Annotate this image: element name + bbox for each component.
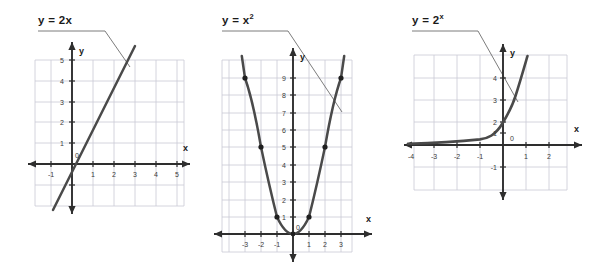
x-tick-label: -3 [431, 153, 437, 160]
origin-label: 0 [510, 135, 514, 142]
x-tick-label: 1 [307, 241, 311, 248]
x-axis-title: x [366, 214, 371, 224]
equation-label-linear: y = 2x [38, 14, 72, 26]
y-tick-label: 2 [60, 119, 64, 126]
data-point [322, 144, 327, 149]
y-tick-label: 5 [60, 57, 64, 64]
linear-graph-svg: -1 1 2 3 4 5 1 2 3 4 5 0 x y [0, 0, 200, 266]
data-point [258, 144, 263, 149]
y-axis-arrow-up-exponential [499, 44, 506, 52]
y-tick-label: 4 [60, 78, 64, 85]
origin-label: 0 [296, 224, 300, 231]
y-tick-label: 7 [282, 110, 286, 117]
axes-quadratic [214, 48, 372, 262]
y-tick-label: 5 [282, 144, 286, 151]
graph-panel-exponential: -4 -3 -2 -1 1 2 -1 1 2 3 4 0 x y [396, 0, 599, 266]
y-axis-title: y [79, 46, 84, 56]
x-tick-label: 1 [524, 153, 528, 160]
x-axis-title: x [574, 124, 579, 134]
x-tick-label: 2 [323, 241, 327, 248]
y-axis-title: y [300, 52, 305, 62]
equation-base-exponential: y = 2 [412, 14, 439, 26]
x-tick-label: 2 [112, 171, 116, 178]
x-tick-label: -1 [274, 241, 280, 248]
y-tick-label: 1 [282, 214, 286, 221]
equation-base-quadratic: y = x [222, 14, 249, 26]
y-tick-label: 4 [493, 75, 497, 82]
x-tick-label: -2 [258, 241, 264, 248]
y-tick-label: 3 [282, 179, 286, 186]
x-tick-label: 4 [154, 171, 158, 178]
x-tick-label: -1 [48, 171, 54, 178]
x-tick-label: 3 [339, 241, 343, 248]
graph-panel-quadratic: -3 -2 -1 1 2 3 1 2 3 4 5 6 7 8 9 0 x y [196, 0, 396, 266]
x-axis-title: x [183, 143, 188, 153]
equation-label-quadratic: y = x2 [222, 14, 254, 26]
x-tick-label: -4 [408, 153, 414, 160]
equation-exponent-exponential: x [439, 12, 443, 21]
equation-label-exponential: y = 2x [412, 14, 444, 26]
y-tick-label: 9 [282, 75, 286, 82]
y-tick-label: 6 [282, 127, 286, 134]
callout-leader-quadratic [222, 31, 342, 112]
x-tick-label: -2 [454, 153, 460, 160]
y-axis-arrow-up-quadratic [289, 48, 296, 56]
data-point [242, 75, 247, 80]
x-tick-label: 2 [547, 153, 551, 160]
x-tick-label: -3 [242, 241, 248, 248]
x-tick-label: -1 [477, 153, 483, 160]
data-point [338, 75, 343, 80]
x-tick-label: 1 [91, 171, 95, 178]
x-axis-arrow-right-linear [182, 160, 190, 167]
y-tick-label: 4 [282, 162, 286, 169]
y-tick-label: 2 [493, 119, 497, 126]
axes-linear [28, 42, 190, 214]
x-tick-label: 5 [175, 171, 179, 178]
exponential-graph-svg: -4 -3 -2 -1 1 2 -1 1 2 3 4 0 x y [396, 0, 599, 266]
y-tick-label: 2 [282, 197, 286, 204]
y-axis-arrow-down-linear [68, 206, 75, 214]
data-point [291, 232, 296, 237]
quadratic-graph-svg: -3 -2 -1 1 2 3 1 2 3 4 5 6 7 8 9 0 x y [196, 0, 396, 266]
y-tick-label: 3 [60, 99, 64, 106]
data-point [306, 214, 311, 219]
origin-label: 0 [75, 152, 79, 159]
y-tick-label: 8 [282, 92, 286, 99]
x-axis-arrow-left-linear [28, 160, 36, 167]
x-axis-arrow-left-quadratic [214, 230, 222, 237]
grid-lines-linear [35, 60, 184, 206]
y-tick-label: 1 [493, 130, 497, 137]
y-tick-label: 1 [60, 140, 64, 147]
x-axis-arrow-right-exponential [574, 141, 582, 148]
y-axis-arrow-up-linear [68, 42, 75, 50]
grid-lines-quadratic [222, 60, 352, 252]
x-tick-label: 3 [133, 171, 137, 178]
y-tick-label: -1 [491, 164, 497, 171]
equation-base-linear: y = 2x [38, 14, 72, 26]
equation-exponent-quadratic: 2 [249, 12, 253, 21]
y-axis-title: y [510, 48, 515, 58]
y-axis-arrow-down-quadratic [289, 254, 296, 262]
x-axis-arrow-right-quadratic [364, 230, 372, 237]
y-axis-arrow-down-exponential [499, 192, 506, 200]
graph-panel-linear: -1 1 2 3 4 5 1 2 3 4 5 0 x y [0, 0, 200, 266]
y-tick-label: 3 [493, 97, 497, 104]
data-point [274, 214, 279, 219]
